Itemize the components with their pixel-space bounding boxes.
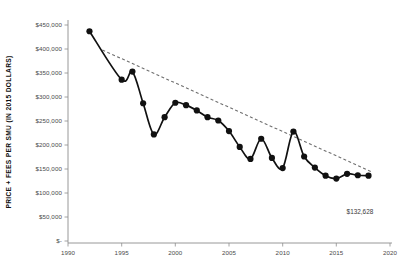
data-point-marker [355, 172, 361, 178]
x-tick-label: 2015 [329, 249, 344, 256]
chart-screenshot: $- $50,000 $100,000 $150,000 $200,000 $2… [0, 0, 407, 271]
y-tick-labels: $- $50,000 $100,000 $150,000 $200,000 $2… [35, 21, 62, 244]
y-tick-label: $350,000 [35, 69, 62, 76]
data-point-marker [290, 128, 296, 134]
x-tick-label: 1995 [115, 249, 130, 256]
x-tick-label: 1990 [61, 249, 76, 256]
data-point-marker [258, 136, 264, 142]
data-point-marker [151, 131, 157, 137]
data-point-marker [301, 153, 307, 159]
y-tick-label: $450,000 [35, 21, 62, 28]
line-chart: $- $50,000 $100,000 $150,000 $200,000 $2… [0, 0, 407, 271]
data-point-marker [247, 156, 253, 162]
y-tick-label: $250,000 [35, 117, 62, 124]
y-tick-label: $- [56, 237, 62, 244]
y-tick-marks [65, 25, 69, 241]
x-tick-label: 2020 [383, 249, 398, 256]
data-point-marker [323, 173, 329, 179]
data-point-marker [204, 114, 210, 120]
data-point-marker [119, 77, 125, 83]
y-axis-title: PRICE + FEES PER SMU (IN 2015 DOLLARS) [5, 55, 13, 208]
y-tick-label: $50,000 [39, 213, 63, 220]
data-point-marker [162, 114, 168, 120]
y-tick-label: $150,000 [35, 165, 62, 172]
data-point-marker [129, 68, 135, 74]
x-tick-label: 2010 [276, 249, 291, 256]
data-point-marker [172, 100, 178, 106]
data-point-marker [215, 117, 221, 123]
data-point-marker [183, 102, 189, 108]
y-tick-label: $200,000 [35, 141, 62, 148]
data-point-marker [280, 165, 286, 171]
y-tick-label: $100,000 [35, 189, 62, 196]
y-tick-label: $300,000 [35, 93, 62, 100]
data-point-marker [333, 176, 339, 182]
data-point-markers [86, 28, 371, 182]
y-tick-label: $400,000 [35, 45, 62, 52]
x-tick-label: 2000 [168, 249, 183, 256]
data-point-marker [194, 107, 200, 113]
data-point-marker [365, 173, 371, 179]
data-point-marker [237, 144, 243, 150]
data-point-marker [269, 155, 275, 161]
data-point-marker [140, 100, 146, 106]
data-point-marker [86, 28, 92, 34]
data-point-marker [344, 171, 350, 177]
x-tick-label: 2005 [222, 249, 237, 256]
trend-line [102, 50, 372, 172]
data-point-marker [312, 164, 318, 170]
data-point-marker [226, 128, 232, 134]
x-tick-marks [68, 243, 390, 247]
x-tick-labels: 1990 1995 2000 2005 2010 2015 2020 [61, 249, 398, 256]
final-value-annotation: $132,628 [347, 208, 374, 215]
data-series-line [89, 31, 368, 178]
